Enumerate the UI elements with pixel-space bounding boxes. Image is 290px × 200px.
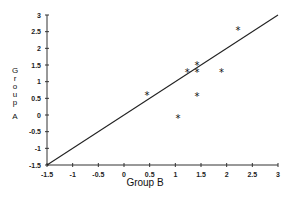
reference-line-y-equals-x	[47, 15, 278, 165]
y-tick-label: 0.5	[31, 95, 41, 102]
y-tick-label: 3	[37, 12, 41, 19]
y-tick-label: -1	[35, 145, 41, 152]
data-point-asterisk: *	[219, 67, 224, 78]
data-point-asterisk: *	[235, 25, 240, 36]
x-tick-label: 2.5	[247, 171, 257, 178]
x-tick-label: 1	[173, 171, 177, 178]
y-tick-label: 2	[37, 45, 41, 52]
y-axis-title-char: p	[13, 98, 18, 107]
diagonal-line	[47, 15, 278, 165]
x-tick-label: -1	[70, 171, 76, 178]
x-tick-label: 2	[225, 171, 229, 178]
y-tick-label: 2.5	[31, 28, 41, 35]
x-tick-label: 3	[276, 171, 280, 178]
x-tick-label: -0.5	[92, 171, 104, 178]
scatter-chart: -1.5-1-0.500.511.522.5332.521.510.50-0.5…	[0, 0, 290, 200]
y-tick-label: 1.5	[31, 62, 41, 69]
data-point-asterisk: *	[194, 67, 199, 78]
x-tick-label: -1.5	[41, 171, 53, 178]
x-axis-title: Group B	[126, 177, 164, 188]
y-axis-title: GroupA	[12, 66, 18, 121]
y-axis-title-char: A	[12, 112, 18, 121]
data-point-asterisk: *	[185, 67, 190, 78]
data-point-asterisk: *	[194, 91, 199, 102]
y-tick-label: 1	[37, 78, 41, 85]
x-tick-label: 1.5	[196, 171, 206, 178]
y-tick-label: -0.5	[29, 128, 41, 135]
data-point-asterisk: *	[175, 113, 180, 124]
y-tick-label: -1.5	[29, 162, 41, 169]
data-points: ********	[145, 25, 241, 124]
data-point-asterisk: *	[145, 90, 150, 101]
y-tick-label: 0	[37, 112, 41, 119]
